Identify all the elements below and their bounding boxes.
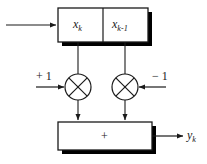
adder-plus-symbol: +	[101, 130, 108, 142]
block-diagram-canvas: xk xk-1 + 1 − 1 + yk	[0, 0, 207, 164]
gain-label-left: + 1	[36, 70, 52, 82]
register-cell-xk-label: xk	[73, 18, 82, 30]
output-label-yk: yk	[187, 129, 196, 141]
register-cell-xk-1-label: xk-1	[112, 18, 128, 30]
gain-label-right: − 1	[152, 70, 168, 82]
